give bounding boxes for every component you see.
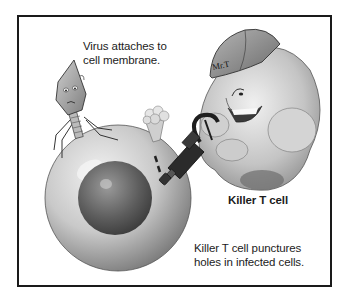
tcell-caption-line2: holes in infected cells.: [194, 256, 304, 269]
infected-cell: [45, 125, 191, 271]
killer-t-cell: Mr.T: [199, 29, 320, 190]
tcell-caption-line1: Killer T cell punctures: [194, 242, 301, 255]
nucleus: [78, 161, 152, 235]
virus-caption-line1: Virus attaches to: [83, 40, 167, 53]
virus-caption-line2: cell membrane.: [83, 54, 160, 67]
tcell-title: Killer T cell: [228, 194, 288, 207]
